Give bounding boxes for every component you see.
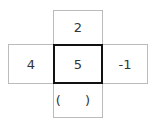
top-cell: 2 — [53, 10, 103, 45]
left-cell: 4 — [8, 44, 54, 84]
center-cell: 5 — [53, 44, 103, 84]
right-cell: -1 — [102, 44, 148, 84]
bottom-cell-blank[interactable]: ( ) — [53, 83, 103, 118]
